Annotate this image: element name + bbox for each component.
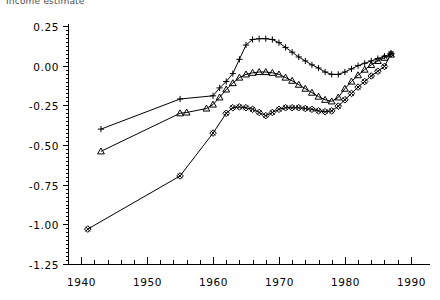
y-tick-label: -0.50 (29, 140, 59, 152)
series-triangle (98, 51, 395, 154)
y-tick-label: 0.00 (33, 61, 59, 73)
x-tick-label: 1940 (67, 276, 96, 288)
y-tick-label: -0.25 (29, 100, 59, 112)
x-tick-label: 1970 (265, 276, 294, 288)
x-axis-tick-labels: 194019501960197019801990 (67, 276, 426, 288)
x-tick-label: 1950 (133, 276, 162, 288)
x-tick-label: 1980 (331, 276, 360, 288)
x-tick-label: 1960 (199, 276, 228, 288)
y-tick-label: 0.25 (33, 21, 59, 33)
y-axis-tick-labels: 0.250.00-0.25-0.50-0.75-1.00-1.25 (29, 21, 59, 271)
data-series-group (84, 36, 394, 233)
x-tick-label: 1990 (397, 276, 426, 288)
y-axis-ticks (63, 27, 68, 265)
chart-plot-area: 0.250.00-0.25-0.50-0.75-1.00-1.25 194019… (0, 0, 440, 300)
y-tick-label: -0.75 (29, 180, 59, 192)
y-tick-label: -1.00 (29, 219, 59, 231)
chart-figure: Income estimate 0.250.00-0.25-0.50-0.75-… (0, 0, 440, 300)
series-polyline-triangle (101, 55, 391, 152)
series-polyline-plus (101, 39, 391, 129)
axis-lines (68, 24, 430, 264)
x-axis-ticks (82, 257, 412, 264)
y-tick-label: -1.25 (29, 259, 59, 271)
